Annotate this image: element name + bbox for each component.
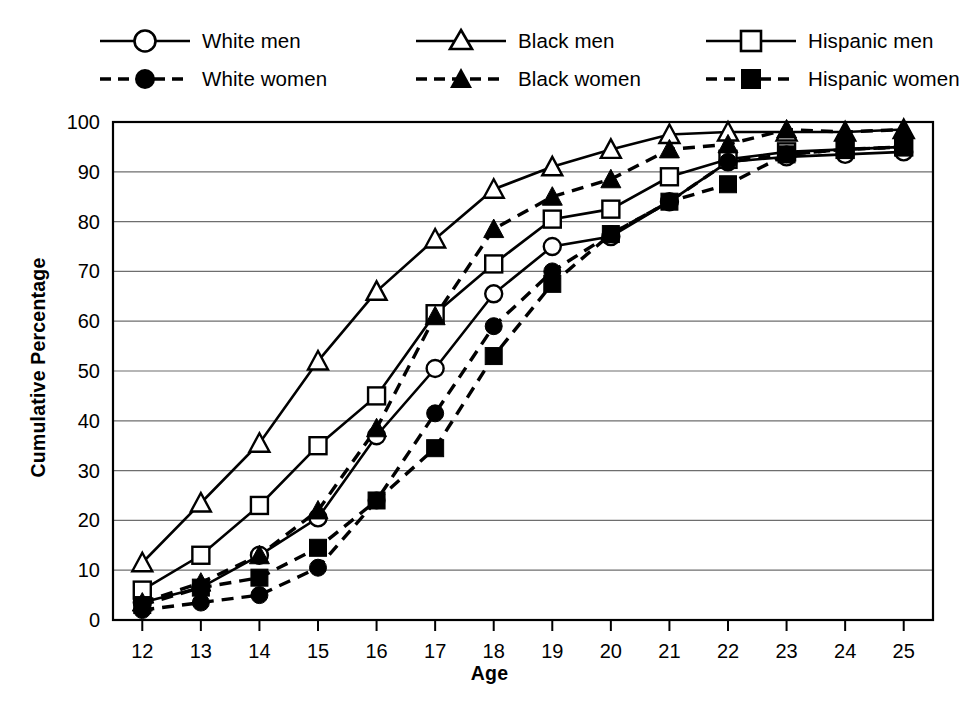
x-tick-label: 23 <box>775 640 797 660</box>
data-point <box>251 569 268 586</box>
x-axis-title: Age <box>0 662 979 685</box>
y-tick-label: 30 <box>78 460 100 482</box>
data-point <box>368 387 385 404</box>
data-point <box>310 539 327 556</box>
y-axis-title: Cumulative Percentage <box>27 158 50 578</box>
data-point <box>485 318 502 335</box>
legend-label-hispanic-men: Hispanic men <box>798 29 933 53</box>
legend-label-hispanic-women: Hispanic women <box>798 67 960 91</box>
y-tick-label: 20 <box>78 509 100 531</box>
filled-circle-dashed-line-icon <box>98 64 192 94</box>
data-point <box>368 492 385 509</box>
series-markers-hispanic-men <box>134 138 912 598</box>
data-point <box>720 153 737 170</box>
series-lines-layer <box>142 129 903 610</box>
data-point <box>544 238 561 255</box>
series-markers-black-men <box>132 119 913 571</box>
filled-triangle-dashed-line-icon <box>414 64 508 94</box>
data-point <box>310 559 327 576</box>
y-tick-label: 0 <box>89 609 100 631</box>
data-point <box>192 579 209 596</box>
x-tick-label: 12 <box>131 640 153 660</box>
legend-item-black-men: Black men <box>414 22 704 60</box>
data-point <box>720 176 737 193</box>
open-square-solid-line-icon <box>704 26 798 56</box>
x-tick-label: 18 <box>483 640 505 660</box>
y-tick-label: 60 <box>78 310 100 332</box>
legend-row-women: White women Black women <box>98 60 938 98</box>
chart-page: White men Black men Hisp <box>0 0 979 704</box>
x-tick-label: 13 <box>190 640 212 660</box>
data-point <box>661 193 678 210</box>
y-tick-label: 50 <box>78 360 100 382</box>
legend-row-men: White men Black men Hisp <box>98 22 938 60</box>
x-tick-label: 22 <box>717 640 739 660</box>
x-tick-label: 17 <box>424 640 446 660</box>
x-tick-label: 24 <box>834 640 856 660</box>
data-point <box>602 226 619 243</box>
series-markers-black-women <box>132 119 913 611</box>
series-markers-white-women <box>134 138 912 618</box>
y-tick-label: 80 <box>78 211 100 233</box>
data-point <box>602 201 619 218</box>
y-tick-label: 40 <box>78 410 100 432</box>
y-tick-label: 90 <box>78 161 100 183</box>
legend-label-black-women: Black women <box>508 67 641 91</box>
data-point <box>251 497 268 514</box>
open-triangle-solid-line-icon <box>414 26 508 56</box>
series-line-hispanic-women <box>142 147 903 605</box>
legend-label-black-men: Black men <box>508 29 615 53</box>
data-point <box>192 547 209 564</box>
data-point <box>544 211 561 228</box>
series-line-white-women <box>142 147 903 610</box>
x-tick-label: 15 <box>307 640 329 660</box>
x-tick-label: 20 <box>600 640 622 660</box>
y-tick-label: 10 <box>78 559 100 581</box>
data-point <box>251 587 268 604</box>
data-point <box>661 168 678 185</box>
legend-item-white-men: White men <box>98 22 414 60</box>
legend-item-white-women: White women <box>98 60 414 98</box>
data-point <box>427 360 444 377</box>
open-circle-solid-line-icon <box>98 26 192 56</box>
data-point <box>427 405 444 422</box>
data-point <box>484 179 504 198</box>
x-tick-label: 14 <box>248 640 270 660</box>
data-point <box>427 440 444 457</box>
data-point <box>485 348 502 365</box>
line-chart-svg: 0102030405060708090100121314151617181920… <box>0 100 979 660</box>
legend-item-hispanic-women: Hispanic women <box>704 60 938 98</box>
x-tick-label: 25 <box>893 640 915 660</box>
legend-label-white-men: White men <box>192 29 301 53</box>
chart-plot-container: Cumulative Percentage Age 01020304050607… <box>0 100 979 704</box>
legend-item-black-women: Black women <box>414 60 704 98</box>
data-point <box>485 285 502 302</box>
data-point <box>485 255 502 272</box>
data-point <box>249 433 269 452</box>
chart-legend: White men Black men Hisp <box>98 22 938 98</box>
legend-item-hispanic-men: Hispanic men <box>704 22 938 60</box>
x-tick-label: 19 <box>541 640 563 660</box>
series-markers-hispanic-women <box>134 138 912 613</box>
data-point <box>895 138 912 155</box>
data-point <box>310 437 327 454</box>
y-tick-label: 70 <box>78 260 100 282</box>
x-tick-label: 16 <box>365 640 387 660</box>
data-point <box>544 275 561 292</box>
y-tick-label: 100 <box>67 111 100 133</box>
series-line-white-men <box>142 152 903 603</box>
x-tick-label: 21 <box>658 640 680 660</box>
legend-label-white-women: White women <box>192 67 327 91</box>
series-line-black-women <box>142 129 903 602</box>
data-point <box>837 141 854 158</box>
series-markers-layer <box>132 119 913 618</box>
data-point <box>778 146 795 163</box>
data-point <box>134 597 151 614</box>
filled-square-dashed-line-icon <box>704 64 798 94</box>
